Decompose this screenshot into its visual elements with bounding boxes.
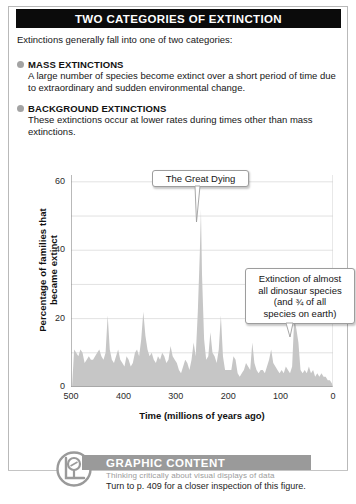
graphic-content-banner: GRAPHIC CONTENT	[82, 455, 311, 470]
x-tick-0: 0	[321, 391, 345, 401]
callout-text: The Great Dying	[166, 173, 236, 185]
x-tick-400: 400	[111, 391, 135, 401]
callout-line-2: all dinosaur species	[251, 285, 349, 297]
page-title: TWO CATEGORIES OF EXTINCTION	[16, 9, 341, 28]
callout-line-1: Extinction of almost	[251, 273, 349, 285]
category-mass-extinctions: MASS EXTINCTIONS A large number of speci…	[17, 59, 339, 93]
graphic-content-subtitle: Thinking critically about visual display…	[106, 471, 275, 480]
category-background-extinctions: BACKGROUND EXTINCTIONS These extinctions…	[17, 103, 339, 137]
callout-line-3: (and ¾ of all	[251, 296, 349, 308]
category-title: MASS EXTINCTIONS	[28, 59, 124, 70]
category-body: A large number of species become extinct…	[28, 70, 339, 93]
y-tick-0: 0	[43, 381, 65, 391]
y-tick-40: 40	[43, 244, 65, 254]
x-tick-100: 100	[269, 391, 293, 401]
callout-dinosaur-extinction: Extinction of almost all dinosaur specie…	[245, 268, 355, 324]
intro-text: Extinctions generally fall into one of t…	[17, 34, 339, 46]
bullet-dot-icon	[17, 105, 24, 112]
x-tick-300: 300	[164, 391, 188, 401]
graphic-content-footer: GRAPHIC CONTENT Thinking critically abou…	[56, 450, 316, 494]
bullet-dot-icon	[17, 61, 24, 68]
y-tick-20: 20	[43, 313, 65, 323]
x-tick-500: 500	[59, 391, 83, 401]
x-axis-label: Time (millions of years ago)	[71, 410, 333, 421]
graphic-content-title: GRAPHIC CONTENT	[106, 457, 225, 469]
category-heading: MASS EXTINCTIONS	[17, 59, 339, 70]
category-heading: BACKGROUND EXTINCTIONS	[17, 103, 339, 114]
figure-panel: TWO CATEGORIES OF EXTINCTION Extinctions…	[8, 6, 348, 471]
callout-line-4: species on earth)	[251, 308, 349, 320]
callout-the-great-dying: The Great Dying	[152, 170, 249, 187]
category-body: These extinctions occur at lower rates d…	[28, 114, 339, 137]
y-tick-60: 60	[43, 176, 65, 186]
x-tick-200: 200	[216, 391, 240, 401]
category-title: BACKGROUND EXTINCTIONS	[28, 103, 166, 114]
graphic-content-note: Turn to p. 409 for a closer inspection o…	[106, 481, 306, 491]
